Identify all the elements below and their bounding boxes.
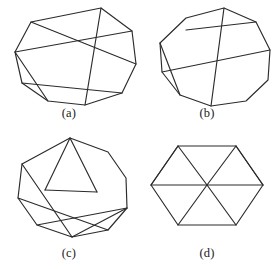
polygon-diagram-b: [138, 0, 276, 112]
chord-lowerleft-to-right: [37, 208, 127, 225]
chord-topright-to-center: [207, 146, 236, 185]
figure-panel-c: (c): [0, 132, 138, 266]
figure-caption-d: (d): [138, 246, 276, 260]
figure-panel-a: (a): [0, 0, 138, 134]
figure-caption-a: (a): [0, 106, 138, 120]
polygon-diagram-d: [138, 132, 276, 244]
chord-left-to-upperright: [15, 31, 132, 52]
chord-upperleft-to-right: [31, 22, 136, 64]
polygon-diagram-c: [0, 132, 138, 244]
figure-panel-b: (b): [138, 0, 276, 134]
chord-left-upper-spoke: [151, 146, 178, 185]
chord-right-upper-spoke: [236, 146, 263, 185]
polygon-chords-d: [151, 146, 263, 225]
polygon-diagram-a: [0, 0, 138, 112]
chord-right-to-bottom: [72, 208, 127, 237]
figure-caption-b: (b): [138, 106, 276, 120]
figure-sheet: (a) (b) (c) (d): [0, 0, 276, 269]
chord-topleft-to-center: [178, 146, 207, 185]
polygon-outline-c: [18, 138, 127, 237]
chord-bottomright-to-center: [207, 185, 236, 225]
chord-bottomleft-to-center: [178, 185, 207, 225]
chord-v-bottom-link: [45, 190, 97, 192]
figure-caption-c: (c): [0, 246, 138, 260]
chord-upperleft-cross: [22, 164, 72, 237]
chord-apex-left-v: [45, 138, 70, 190]
chord-vertical-center: [211, 8, 224, 106]
figure-panel-d: (d): [138, 132, 276, 266]
